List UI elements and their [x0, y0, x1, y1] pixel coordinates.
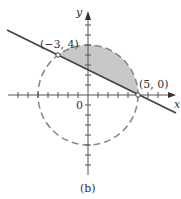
diagram: (−3, 4) (5, 0) y x 0 (b)	[0, 0, 181, 199]
y-axis-label: y	[75, 6, 83, 19]
point-neg3-4	[56, 53, 60, 57]
line-x-plus-2y-eq-5	[7, 30, 176, 113]
point-label-5-0: (5, 0)	[139, 78, 169, 91]
x-axis	[8, 92, 176, 98]
y-axis-arrow-icon	[85, 11, 91, 20]
origin-label: 0	[76, 99, 83, 112]
y-axis	[85, 11, 91, 175]
x-axis-label: x	[174, 98, 181, 111]
point-5-0	[136, 93, 140, 97]
point-label-neg3-4: (−3, 4)	[40, 38, 79, 51]
figure-caption: (b)	[80, 182, 96, 195]
